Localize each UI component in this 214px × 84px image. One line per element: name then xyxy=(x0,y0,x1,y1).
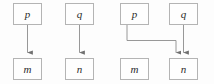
node-box-right-p[interactable]: p xyxy=(120,3,149,25)
node-box-left-p[interactable]: p xyxy=(13,3,42,25)
node-label-left-m: m xyxy=(23,63,31,74)
node-box-right-n[interactable]: n xyxy=(169,58,198,80)
node-label-right-q: q xyxy=(181,8,187,19)
node-box-left-q[interactable]: q xyxy=(65,3,94,25)
node-label-left-q: q xyxy=(77,8,83,19)
node-label-left-p: p xyxy=(25,8,31,19)
node-label-right-p: p xyxy=(132,8,138,19)
node-box-left-m[interactable]: m xyxy=(13,58,42,80)
node-label-right-m: m xyxy=(130,63,138,74)
node-label-left-n: n xyxy=(77,63,83,74)
diagram-canvas: p q m n p q m n xyxy=(0,0,214,84)
node-box-right-m[interactable]: m xyxy=(120,58,149,80)
node-label-right-n: n xyxy=(181,63,187,74)
node-box-right-q[interactable]: q xyxy=(169,3,198,25)
node-box-left-n[interactable]: n xyxy=(65,58,94,80)
edge-right-p-to-n xyxy=(127,25,176,53)
